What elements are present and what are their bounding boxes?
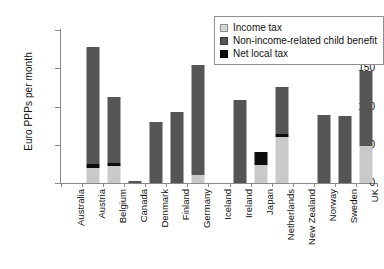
net-local-tax-swatch [220,50,228,58]
bar-segment-child-benefit [128,181,141,183]
x-tick-label: Denmark [160,189,170,228]
x-tick-label: UK [370,189,380,202]
x-tick-mark [166,183,167,187]
bar[interactable] [339,116,352,183]
y-tick-mark [55,145,60,146]
legend-label: Net local tax [233,48,288,59]
x-tick-label: Austria [97,189,107,219]
x-tick-label: Ireland [244,189,254,218]
legend-item[interactable]: Net local tax [220,47,377,60]
bar-segment-child-benefit [339,116,352,183]
x-tick-label: New Zealand [307,189,317,245]
x-tick-mark [124,183,125,187]
legend-label: Non-income-related child benefit [233,35,377,46]
bar-segment-income-tax [86,168,99,183]
bar[interactable] [191,65,204,183]
bar-segment-child-benefit [170,112,183,183]
x-tick-mark [145,183,146,187]
bar-segment-child-benefit [360,71,373,147]
x-tick-mark [335,183,336,187]
x-tick-mark [187,183,188,187]
bar-segment-income-tax [107,166,120,183]
x-tick-mark [251,183,252,187]
bar-slot [103,30,124,183]
bar-slot [61,30,82,183]
x-tick-label: Japan [265,189,275,215]
x-tick-label: Australia [76,189,86,226]
x-tick-label: Finland [181,189,191,220]
bar-slot [187,30,208,183]
bar-slot [82,30,103,183]
x-tick-mark [230,183,231,187]
legend-label: Income tax [233,22,282,33]
child-benefit-swatch [220,37,228,45]
bar[interactable] [255,152,268,183]
x-tick-mark [293,183,294,187]
bar-segment-income-tax [276,137,289,183]
x-tick-label: Sweden [349,189,359,223]
y-tick-mark [55,183,60,184]
bar-segment-income-tax [191,175,204,183]
x-tick-mark [356,183,357,187]
x-tick-label: Iceland [223,189,233,220]
y-tick-mark [55,68,60,69]
bar-segment-child-benefit [149,122,162,183]
bar-segment-net-local-tax [255,152,268,164]
x-tick-mark [377,183,378,187]
x-axis-line [60,183,378,184]
bar-segment-child-benefit [86,47,99,164]
bar-slot [124,30,145,183]
x-tick-label: Belgium [118,189,128,223]
y-axis-title: Euro PPPs per month [23,22,34,182]
chart-legend: Income taxNon-income-related child benef… [214,16,384,65]
bar[interactable] [170,112,183,183]
x-tick-mark [272,183,273,187]
x-tick-mark [208,183,209,187]
x-tick-mark [103,183,104,187]
x-tick-mark [61,183,62,187]
y-tick-mark [55,107,60,108]
income-tax-swatch [220,24,228,32]
bar-segment-child-benefit [191,65,204,175]
bar[interactable] [234,100,247,183]
bar-segment-child-benefit [276,87,289,134]
bar-segment-child-benefit [107,97,120,163]
x-tick-label: Germany [202,189,212,228]
bar[interactable] [86,47,99,183]
bar[interactable] [360,71,373,183]
bar-segment-child-benefit [318,115,331,183]
bar[interactable] [128,181,141,183]
bar-segment-child-benefit [234,100,247,183]
legend-item[interactable]: Income tax [220,21,377,34]
legend-item[interactable]: Non-income-related child benefit [220,34,377,47]
bar-slot [145,30,166,183]
x-tick-mark [314,183,315,187]
x-tick-mark [82,183,83,187]
bar-segment-income-tax [360,146,373,183]
bar-slot [166,30,187,183]
x-tick-label: Netherlands [286,189,296,240]
bar[interactable] [276,87,289,183]
x-tick-label: Norway [328,189,338,221]
x-tick-label: Canada [139,189,149,222]
bar[interactable] [318,115,331,183]
y-tick-mark [55,30,60,31]
bar[interactable] [149,122,162,183]
bar[interactable] [107,97,120,183]
bar-segment-income-tax [255,165,268,183]
